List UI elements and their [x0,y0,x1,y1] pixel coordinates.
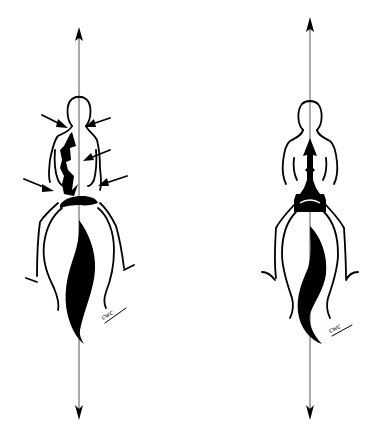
right-rider-figure: cwc [262,17,358,420]
right-saddle [294,194,326,212]
right-rider-aligned-spine-arrow-icon [300,138,320,194]
left-right-stirrup [124,265,134,270]
left-rider-figure: cwc [24,27,134,420]
left-signature-text: cwc [100,307,116,321]
right-signature-text: cwc [327,321,342,335]
right-horse-tail [298,226,327,344]
left-horse-right-hindquarter [98,208,114,308]
force-arrow-lower-right-icon [106,176,127,183]
left-left-stirrup [26,278,37,282]
right-horse-left-hindquarter [282,212,296,318]
illustration-canvas: cwc cwc [0,0,380,439]
left-artist-signature: cwc [100,307,127,323]
left-rider-twisted-spine-arrow-icon [60,132,78,196]
left-force-arrows [24,115,127,192]
right-rider-left-leg [275,205,294,278]
right-rider-left-arm [294,158,297,180]
right-left-stirrup [262,272,275,280]
left-horse-left-hindquarter [44,208,62,310]
left-horse-tail [66,220,95,344]
right-right-stirrup [346,272,358,280]
right-rider-left-torso [283,130,303,184]
right-artist-signature: cwc [327,321,352,336]
right-rider-right-arm [323,158,326,180]
right-rider-right-torso [317,130,337,184]
